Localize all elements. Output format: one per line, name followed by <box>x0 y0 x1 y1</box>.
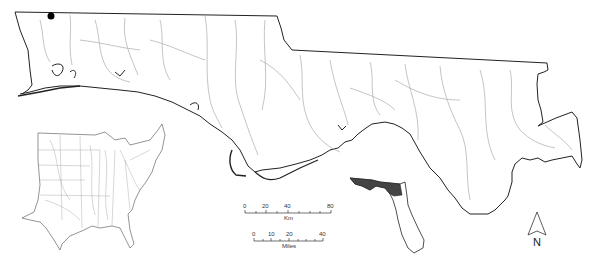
scale-mi-tick-0: 0 <box>252 231 255 237</box>
scale-km-unit: Km <box>284 215 293 221</box>
scale-mi-unit: Miles <box>282 243 296 249</box>
map-canvas <box>0 0 597 265</box>
scale-bar-miles <box>254 238 323 241</box>
study-site-marker <box>48 13 55 20</box>
scale-km-tick-20: 20 <box>262 203 269 209</box>
river-network <box>40 15 572 200</box>
us-inset-map <box>22 124 165 250</box>
scale-bar-km <box>245 210 331 213</box>
scale-mi-tick-10: 10 <box>268 231 275 237</box>
scale-km-tick-0: 0 <box>243 203 246 209</box>
north-label: N <box>533 236 541 248</box>
study-area-outline <box>15 12 582 214</box>
scale-mi-tick-20: 20 <box>286 231 293 237</box>
scale-km-tick-40: 40 <box>284 203 291 209</box>
florida-inset-map <box>350 178 424 253</box>
scale-km-tick-80: 80 <box>327 203 334 209</box>
study-area-highlight <box>350 178 402 196</box>
north-arrow-icon <box>528 212 546 235</box>
scale-mi-tick-40: 40 <box>319 231 326 237</box>
